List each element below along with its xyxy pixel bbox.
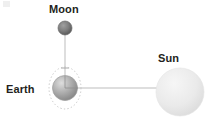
earth-label: Earth	[6, 84, 35, 95]
moon-label: Moon	[49, 4, 79, 15]
sun-sphere	[156, 68, 204, 116]
moon-sphere	[58, 21, 72, 35]
diagram-canvas	[0, 0, 206, 130]
sun-label: Sun	[158, 53, 179, 64]
earth-moon-sun-diagram: Moon Earth Sun	[0, 0, 206, 130]
